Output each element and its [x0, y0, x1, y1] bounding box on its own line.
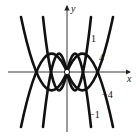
curve-label-4: 4 — [99, 52, 104, 63]
curve-label-minus-1: −1 — [89, 109, 100, 120]
curve-label-1: 1 — [91, 33, 96, 44]
x-axis-label: x — [126, 73, 132, 84]
y-axis-label: y — [70, 3, 76, 14]
parabola-family-diagram: x y 1 4 −4 −1 — [0, 0, 138, 136]
origin-open-circle — [64, 69, 69, 74]
curve-label-minus-4: −4 — [102, 89, 113, 100]
